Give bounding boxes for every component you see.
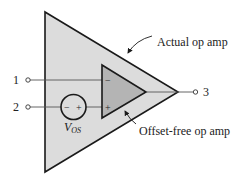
terminal-3-node — [193, 90, 197, 94]
vos-plus-sign: + — [76, 102, 82, 113]
inner-minus-sign: − — [105, 75, 111, 86]
terminal-1-label: 1 — [13, 73, 19, 87]
vos-minus-sign: − — [64, 102, 70, 113]
terminal-1-node — [26, 78, 30, 82]
actual-opamp-callout-arrow — [128, 36, 152, 53]
terminal-3-label: 3 — [203, 85, 209, 99]
actual-opamp-label: Actual op amp — [157, 35, 228, 49]
inner-plus-sign: + — [105, 102, 111, 113]
terminal-2-label: 2 — [13, 100, 19, 114]
opamp-offset-diagram: 1 2 − + VOS − + 3 Actual op amp Offset-f… — [0, 0, 245, 185]
offset-free-opamp-label: Offset-free op amp — [139, 124, 230, 138]
terminal-2-node — [26, 105, 30, 109]
